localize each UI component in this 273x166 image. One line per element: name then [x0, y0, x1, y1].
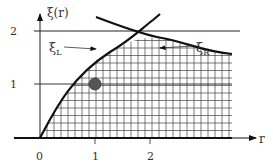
x-tick-label-0: 0	[36, 150, 43, 163]
x-tick-label-2: 2	[147, 150, 154, 163]
curve-right-label: ξR	[196, 40, 210, 57]
curve-left-label: ξL	[49, 40, 62, 57]
point-marker	[89, 78, 101, 90]
hatched-region	[40, 20, 232, 138]
x-axis-label: r	[259, 132, 265, 146]
diagram-canvas: ξ(r) r 2 1 0 1 2 ξL ξR	[0, 0, 273, 166]
y-tick-label-1: 1	[10, 78, 17, 91]
y-axis-label: ξ(r)	[47, 6, 69, 20]
label-arrow-left	[64, 47, 96, 49]
x-tick-label-1: 1	[92, 150, 99, 163]
y-tick-label-2: 2	[10, 25, 17, 38]
